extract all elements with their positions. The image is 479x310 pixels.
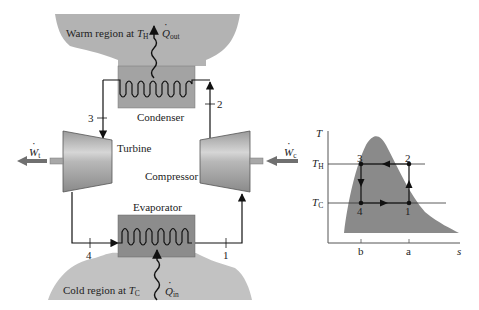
state-2-label: 2 (217, 98, 223, 110)
ts-point-1: 1 (405, 205, 411, 217)
svg-text:TH: TH (312, 157, 324, 171)
svg-text:·: · (168, 276, 172, 288)
ts-x-axis-label: s (457, 245, 461, 257)
svg-text:Warm region at TH: Warm region at TH (66, 27, 149, 41)
svg-text:TC: TC (312, 196, 323, 210)
ts-point-2: 2 (405, 152, 411, 164)
warm-region-label: Warm region at (66, 27, 137, 39)
line-1 (192, 194, 242, 243)
ts-y-axis-label: T (316, 127, 323, 139)
cold-region-label: Cold region at (63, 284, 129, 296)
compressor-shaft (250, 158, 263, 164)
evaporator-label: Evaporator (133, 201, 182, 213)
svg-text:·: · (287, 137, 291, 149)
turbine-shaft (50, 158, 63, 164)
ts-point-3: 3 (357, 152, 363, 164)
ts-x-tick-b: b (358, 245, 364, 257)
ts-diagram: T s TH TC 3 2 4 1 b a (312, 127, 461, 257)
ts-x-tick-a: a (406, 245, 411, 257)
line-4 (72, 192, 118, 243)
compressor (200, 131, 250, 192)
condenser-label: Condenser (137, 111, 184, 123)
turbine-label: Turbine (117, 142, 152, 154)
svg-text:Cold region at TC: Cold region at TC (63, 284, 140, 298)
svg-text:·: · (164, 18, 168, 30)
ts-point-4: 4 (357, 205, 363, 217)
refrigeration-cycle-diagram: Warm region at TH Condenser Qout · 3 2 T… (0, 0, 479, 310)
turbine (63, 131, 112, 192)
svg-text:·: · (32, 137, 36, 149)
state-1-label: 1 (223, 249, 229, 261)
state-3-label: 3 (88, 112, 94, 124)
compressor-label: Compressor (145, 170, 199, 182)
